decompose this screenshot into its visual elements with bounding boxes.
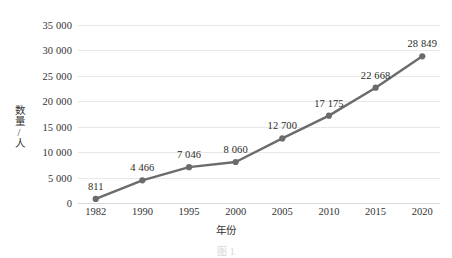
data-point-label: 22 668 — [361, 70, 390, 81]
data-point-label: 12 700 — [268, 120, 297, 131]
x-axis-title: 年份 — [0, 222, 452, 237]
series-marker — [279, 135, 285, 141]
x-tick-label: 2020 — [412, 206, 433, 217]
series-marker — [373, 85, 379, 91]
x-tick-label: 2000 — [225, 206, 246, 217]
series-marker — [419, 53, 425, 59]
data-point-label: 28 849 — [408, 38, 437, 49]
x-tick-label: 1990 — [132, 206, 153, 217]
data-point-label: 4 466 — [130, 162, 154, 173]
x-tick-label: 2015 — [365, 206, 386, 217]
series-marker — [326, 113, 332, 119]
x-axis-tick-labels: 19821990199520002005201020152020 — [0, 206, 452, 222]
figure-caption: 图 1 — [0, 243, 452, 258]
data-point-label: 17 175 — [314, 98, 343, 109]
x-tick-label: 1995 — [179, 206, 200, 217]
series-marker — [93, 196, 99, 202]
data-point-label: 811 — [88, 181, 104, 192]
figure-caption-text: 图 1 — [217, 246, 235, 257]
data-point-label: 8 060 — [224, 144, 248, 155]
series-marker — [233, 159, 239, 165]
x-tick-label: 1982 — [85, 206, 106, 217]
x-axis-title-text: 年份 — [216, 225, 236, 236]
x-tick-label: 2010 — [318, 206, 339, 217]
x-tick-label: 2005 — [272, 206, 293, 217]
series-marker — [139, 177, 145, 183]
series-marker — [186, 164, 192, 170]
data-point-label: 7 046 — [177, 149, 201, 160]
